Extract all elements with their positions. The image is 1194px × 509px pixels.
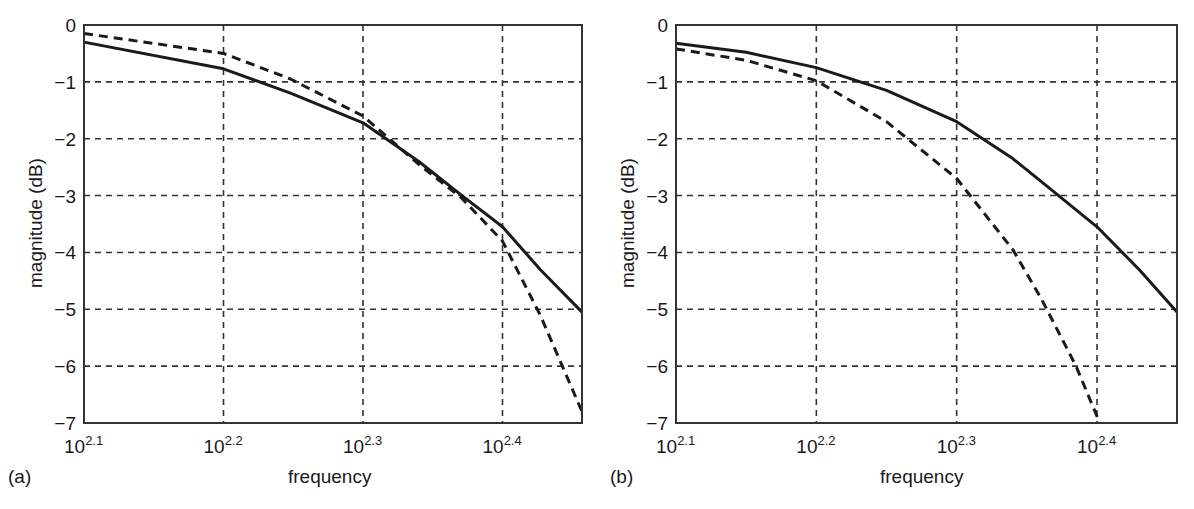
panel-b-xlabel: frequency (880, 466, 963, 488)
panel-b-label: (b) (610, 466, 633, 488)
y-tick-label: −2 (54, 129, 76, 150)
x-tick-label: 102.1 (656, 433, 695, 457)
y-tick-label: −1 (54, 72, 76, 93)
y-tick-label: −3 (646, 186, 668, 207)
figure: 0−1−2−3−4−5−6−7102.1102.2102.3102.4 0−1−… (0, 0, 1194, 509)
axes-frame (676, 25, 1177, 423)
axes-frame (84, 25, 582, 423)
series-solid-line (676, 43, 1177, 312)
panel-a-ylabel: magnitude (dB) (25, 148, 47, 298)
y-tick-label: 0 (657, 15, 668, 36)
x-tick-label: 102.4 (1077, 433, 1116, 457)
panel-b-ylabel: magnitude (dB) (617, 148, 639, 298)
y-tick-label: −6 (646, 356, 668, 377)
x-tick-label: 102.3 (343, 433, 382, 457)
panel-a-chart: 0−1−2−3−4−5−6−7102.1102.2102.3102.4 (54, 15, 582, 457)
y-tick-label: −2 (646, 129, 668, 150)
panel-b-chart: 0−1−2−3−4−5−6−7102.1102.2102.3102.4 (646, 15, 1177, 457)
panel-a-label: (a) (8, 466, 31, 488)
x-tick-label: 102.2 (203, 433, 242, 457)
y-tick-label: −7 (54, 413, 76, 434)
x-tick-label: 102.3 (937, 433, 976, 457)
y-tick-label: −4 (54, 242, 76, 263)
x-tick-label: 102.2 (796, 433, 835, 457)
grid (676, 25, 1177, 423)
y-tick-label: −7 (646, 413, 668, 434)
y-tick-label: −5 (646, 299, 668, 320)
y-tick-label: 0 (65, 15, 76, 36)
panel-a-xlabel: frequency (288, 466, 371, 488)
y-tick-label: −4 (646, 242, 668, 263)
y-tick-label: −6 (54, 356, 76, 377)
grid (84, 25, 582, 423)
y-tick-label: −5 (54, 299, 76, 320)
y-tick-label: −1 (646, 72, 668, 93)
y-tick-label: −3 (54, 186, 76, 207)
x-tick-label: 102.4 (482, 433, 521, 457)
x-tick-label: 102.1 (64, 433, 103, 457)
series-dashed-line (84, 34, 582, 412)
